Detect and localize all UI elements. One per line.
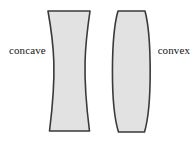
convex-label: convex <box>158 44 190 56</box>
concave-lens-shape <box>48 11 90 131</box>
lens-diagram-canvas <box>0 0 195 141</box>
convex-lens-shape <box>112 11 150 132</box>
concave-label: concave <box>9 44 46 56</box>
lens-diagram: concave convex <box>0 0 195 141</box>
